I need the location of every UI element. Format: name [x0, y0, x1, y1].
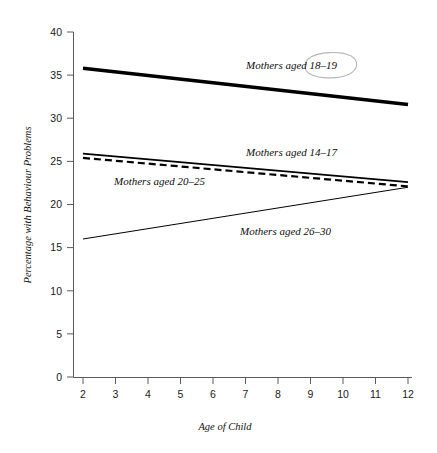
- y-axis-title: Percentage with Behaviour Problems: [22, 127, 33, 285]
- x-axis: [74, 378, 413, 385]
- x-tick-label-3: 3: [113, 388, 119, 400]
- line-chart-canvas: 40 35 30 25 20 15 10 5 0 2 3 4 5 6 7 8 9…: [0, 0, 437, 453]
- x-tick-label-9: 9: [308, 388, 314, 400]
- x-tick-label-12: 12: [402, 388, 414, 400]
- y-tick-labels: 40 35 30 25 20 15 10 5 0: [50, 26, 62, 383]
- x-tick-label-8: 8: [275, 388, 281, 400]
- y-tick-label-35: 35: [50, 69, 62, 81]
- series-label-mothers-26-30: Mothers aged 26–30: [239, 225, 332, 237]
- y-tick-label-30: 30: [50, 112, 62, 124]
- x-tick-label-7: 7: [243, 388, 249, 400]
- series-line-mothers-18-19: [83, 68, 408, 104]
- x-tick-label-10: 10: [337, 388, 349, 400]
- y-tick-label-25: 25: [50, 155, 62, 167]
- y-tick-label-20: 20: [50, 198, 62, 210]
- y-axis: [67, 32, 74, 378]
- y-tick-label-40: 40: [50, 26, 62, 38]
- y-tick-label-5: 5: [56, 328, 62, 340]
- x-tick-label-2: 2: [80, 388, 86, 400]
- y-tick-label-0: 0: [56, 371, 62, 383]
- x-tick-label-4: 4: [145, 388, 151, 400]
- x-tick-label-5: 5: [178, 388, 184, 400]
- x-axis-title: Age of Child: [197, 421, 252, 432]
- series-label-mothers-14-17: Mothers aged 14–17: [245, 146, 338, 158]
- y-tick-label-10: 10: [50, 285, 62, 297]
- x-tick-labels: 2 3 4 5 6 7 8 9 10 11 12: [80, 388, 414, 400]
- chart-figure: 40 35 30 25 20 15 10 5 0 2 3 4 5 6 7 8 9…: [0, 0, 437, 453]
- y-tick-label-15: 15: [50, 241, 62, 253]
- series-label-mothers-20-25: Mothers aged 20–25: [113, 175, 206, 187]
- x-tick-label-6: 6: [210, 388, 216, 400]
- series-label-mothers-18-19: Mothers aged 18–19: [245, 59, 338, 71]
- x-tick-label-11: 11: [370, 388, 381, 400]
